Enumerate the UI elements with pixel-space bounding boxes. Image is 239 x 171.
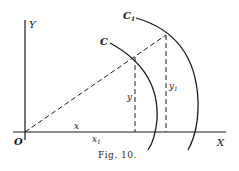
y-label: y bbox=[126, 92, 133, 102]
origin-label: O bbox=[14, 136, 23, 147]
x-axis-label: X bbox=[216, 137, 225, 148]
curve-c1 bbox=[136, 18, 198, 150]
x-label: x bbox=[74, 121, 79, 131]
curve-c1-label: C1 bbox=[123, 10, 135, 22]
curve-c bbox=[110, 43, 157, 150]
y-axis-label: Y bbox=[29, 19, 37, 30]
x1-sub: 1 bbox=[97, 138, 101, 145]
figure-caption: Fig. 10. bbox=[98, 150, 137, 160]
curve-c-label: C bbox=[100, 36, 108, 47]
curve-c1-main: C bbox=[123, 10, 131, 21]
curve-c1-sub: 1 bbox=[131, 15, 135, 22]
x1-label: x1 bbox=[92, 134, 101, 145]
y1-sub: 1 bbox=[174, 85, 178, 92]
y1-label: y1 bbox=[168, 81, 178, 92]
figure-diagram: Y X O C C1 x x1 y y1 Fig. 10. bbox=[0, 0, 239, 171]
radius-dashed-line bbox=[25, 35, 166, 132]
